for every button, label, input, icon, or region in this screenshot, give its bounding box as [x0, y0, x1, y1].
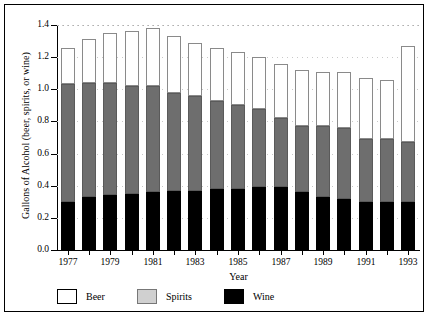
bar-group[interactable]	[316, 25, 330, 250]
x-tick	[344, 250, 345, 255]
bar-group[interactable]	[210, 25, 224, 250]
bar-segment-beer[interactable]	[274, 64, 288, 119]
x-tick	[259, 250, 260, 255]
x-tick	[195, 250, 196, 255]
chart-frame: Gallons of Alcohol (beer, spirits, or wi…	[4, 4, 424, 312]
legend-label-spirits: Spirits	[166, 291, 192, 302]
bar-segment-beer[interactable]	[125, 31, 139, 86]
bar-segment-wine[interactable]	[401, 202, 415, 250]
bar-segment-beer[interactable]	[401, 46, 415, 142]
bar-segment-beer[interactable]	[295, 70, 309, 126]
bar-segment-spirits[interactable]	[146, 86, 160, 192]
bar-segment-spirits[interactable]	[380, 139, 394, 202]
bar-group[interactable]	[380, 25, 394, 250]
bar-segment-beer[interactable]	[61, 48, 75, 85]
bar-segment-wine[interactable]	[231, 189, 245, 250]
x-tick-label: 1989	[303, 257, 343, 267]
bar-segment-wine[interactable]	[125, 194, 139, 250]
bar-segment-wine[interactable]	[359, 202, 373, 250]
bar-segment-spirits[interactable]	[295, 126, 309, 192]
bar-segment-wine[interactable]	[61, 202, 75, 250]
bar-segment-wine[interactable]	[274, 187, 288, 250]
bar-segment-beer[interactable]	[337, 72, 351, 128]
wine-swatch-icon	[224, 289, 244, 304]
y-tick-label: 1.2	[5, 51, 49, 61]
bar-segment-spirits[interactable]	[103, 83, 117, 196]
x-tick	[323, 250, 324, 255]
legend-label-wine: Wine	[253, 291, 274, 302]
bar-segment-beer[interactable]	[231, 52, 245, 105]
bar-segment-wine[interactable]	[146, 192, 160, 250]
bar-segment-wine[interactable]	[103, 195, 117, 250]
x-axis-title: Year	[57, 271, 420, 282]
x-tick	[387, 250, 388, 255]
bar-segment-wine[interactable]	[380, 202, 394, 250]
y-tick-label: 1.0	[5, 83, 49, 93]
bar-segment-wine[interactable]	[337, 199, 351, 250]
bar-segment-spirits[interactable]	[337, 128, 351, 199]
x-tick	[68, 250, 69, 255]
x-tick-label: 1983	[175, 257, 215, 267]
bar-segment-beer[interactable]	[252, 57, 266, 108]
x-tick-label: 1977	[48, 257, 88, 267]
x-tick	[238, 250, 239, 255]
beer-swatch-icon	[57, 289, 77, 304]
bar-segment-wine[interactable]	[316, 197, 330, 250]
bar-segment-wine[interactable]	[82, 197, 96, 250]
bar-segment-beer[interactable]	[103, 33, 117, 83]
bar-segment-beer[interactable]	[380, 80, 394, 139]
bar-segment-beer[interactable]	[146, 28, 160, 86]
x-tick-label: 1993	[388, 257, 428, 267]
x-tick	[89, 250, 90, 255]
bar-group[interactable]	[401, 25, 415, 250]
bar-segment-beer[interactable]	[82, 39, 96, 82]
bar-group[interactable]	[167, 25, 181, 250]
bar-segment-spirits[interactable]	[316, 126, 330, 197]
bar-group[interactable]	[61, 25, 75, 250]
chart-legend: Beer Spirits Wine	[57, 285, 420, 307]
bar-group[interactable]	[295, 25, 309, 250]
bar-segment-beer[interactable]	[210, 48, 224, 101]
x-tick	[110, 250, 111, 255]
bar-segment-spirits[interactable]	[188, 96, 202, 191]
bar-segment-beer[interactable]	[316, 72, 330, 127]
bar-segment-spirits[interactable]	[252, 109, 266, 188]
x-tick	[174, 250, 175, 255]
x-tick	[153, 250, 154, 255]
bar-group[interactable]	[125, 25, 139, 250]
bar-segment-spirits[interactable]	[125, 86, 139, 194]
bar-segment-wine[interactable]	[295, 192, 309, 250]
bar-segment-wine[interactable]	[188, 191, 202, 250]
bar-segment-spirits[interactable]	[167, 93, 181, 191]
spirits-swatch-icon	[137, 289, 157, 304]
bar-group[interactable]	[252, 25, 266, 250]
bar-segment-beer[interactable]	[188, 43, 202, 96]
bar-segment-beer[interactable]	[359, 78, 373, 139]
bar-segment-spirits[interactable]	[61, 84, 75, 201]
bar-group[interactable]	[146, 25, 160, 250]
x-tick-label: 1985	[218, 257, 258, 267]
bar-group[interactable]	[359, 25, 373, 250]
bar-segment-spirits[interactable]	[401, 142, 415, 201]
bar-segment-wine[interactable]	[167, 191, 181, 250]
bar-segment-spirits[interactable]	[210, 101, 224, 189]
x-tick-label: 1981	[133, 257, 173, 267]
bar-segment-spirits[interactable]	[359, 139, 373, 202]
bar-group[interactable]	[231, 25, 245, 250]
y-tick	[51, 250, 57, 251]
bar-group[interactable]	[188, 25, 202, 250]
bar-segment-beer[interactable]	[167, 36, 181, 92]
y-tick-label: 0.8	[5, 115, 49, 125]
y-tick-label: 0.2	[5, 212, 49, 222]
bar-group[interactable]	[337, 25, 351, 250]
bar-segment-wine[interactable]	[252, 187, 266, 250]
y-tick-label: 0.6	[5, 148, 49, 158]
bar-group[interactable]	[274, 25, 288, 250]
y-tick-label: 0.4	[5, 180, 49, 190]
bar-segment-spirits[interactable]	[82, 83, 96, 197]
bar-segment-spirits[interactable]	[274, 118, 288, 187]
bar-group[interactable]	[103, 25, 117, 250]
bar-segment-spirits[interactable]	[231, 105, 245, 189]
bar-group[interactable]	[82, 25, 96, 250]
bar-segment-wine[interactable]	[210, 189, 224, 250]
